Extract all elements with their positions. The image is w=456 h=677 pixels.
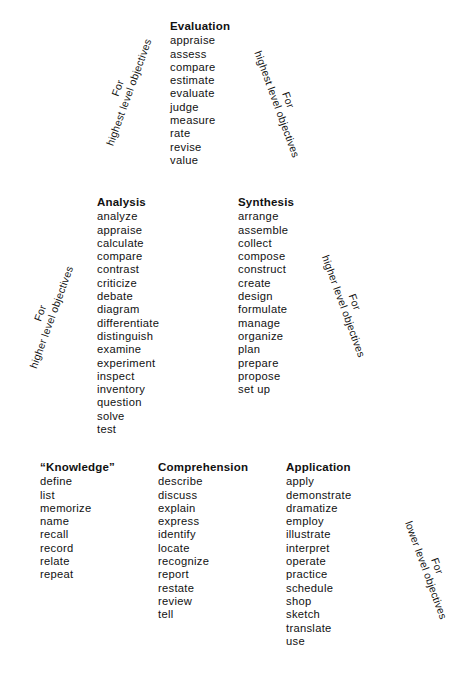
label-higher-left: For higher level objectives [13,252,78,378]
verb-item: use [286,635,352,648]
verb-item: manage [238,317,294,330]
verb-item: rate [170,127,230,140]
analysis-column: Analysis analyzeappraisecalculatecompare… [97,196,159,436]
verb-item: explain [158,502,248,515]
application-verb-list: applydemonstratedramatizeemployillustrat… [286,475,352,648]
comprehension-heading: Comprehension [158,461,248,474]
verb-item: propose [238,370,294,383]
verb-item: name [40,515,115,528]
verb-item: employ [286,515,352,528]
verb-item: translate [286,622,352,635]
verb-item: assemble [238,224,294,237]
verb-item: compare [170,61,230,74]
verb-item: experiment [97,357,159,370]
analysis-heading: Analysis [97,196,159,209]
verb-item: distinguish [97,330,159,343]
verb-item: collect [238,237,294,250]
verb-item: formulate [238,303,294,316]
verb-item: question [97,396,159,409]
knowledge-column: “Knowledge” definelistmemorizenamerecall… [40,461,115,582]
evaluation-verb-list: appraiseassesscompareestimateevaluatejud… [170,34,230,167]
verb-item: arrange [238,210,294,223]
verb-item: practice [286,568,352,581]
verb-item: dramatize [286,502,352,515]
application-heading: Application [286,461,352,474]
verb-item: recall [40,528,115,541]
verb-item: memorize [40,502,115,515]
verb-item: examine [97,343,159,356]
verb-item: construct [238,263,294,276]
verb-item: measure [170,114,230,127]
verb-item: restate [158,582,248,595]
verb-item: solve [97,410,159,423]
verb-item: evaluate [170,87,230,100]
verb-item: appraise [170,34,230,47]
verb-item: inventory [97,383,159,396]
verb-item: design [238,290,294,303]
verb-item: record [40,542,115,555]
verb-item: list [40,489,115,502]
label-lower-right: For lower level objectives [400,508,456,629]
verb-item: set up [238,383,294,396]
verb-item: relate [40,555,115,568]
verb-item: operate [286,555,352,568]
verb-item: compose [238,250,294,263]
comprehension-column: Comprehension describediscussexplainexpr… [158,461,248,622]
verb-item: tell [158,608,248,621]
verb-item: value [170,154,230,167]
verb-item: sketch [286,608,352,621]
verb-item: schedule [286,582,352,595]
verb-item: estimate [170,74,230,87]
verb-item: inspect [97,370,159,383]
verb-item: report [158,568,248,581]
synthesis-verb-list: arrangeassemblecollectcomposeconstructcr… [238,210,294,396]
comprehension-verb-list: describediscussexplainexpressidentifyloc… [158,475,248,621]
verb-item: revise [170,141,230,154]
analysis-verb-list: analyzeappraisecalculatecomparecontrastc… [97,210,159,436]
verb-item: assess [170,48,230,61]
verb-item: review [158,595,248,608]
evaluation-column: Evaluation appraiseassesscompareestimate… [170,20,230,167]
verb-item: appraise [97,224,159,237]
label-higher-right: For higher level objectives [317,241,382,367]
verb-item: express [158,515,248,528]
verb-item: contrast [97,263,159,276]
verb-item: calculate [97,237,159,250]
evaluation-heading: Evaluation [170,20,230,33]
verb-item: discuss [158,489,248,502]
verb-item: shop [286,595,352,608]
verb-item: apply [286,475,352,488]
verb-item: organize [238,330,294,343]
verb-item: judge [170,101,230,114]
verb-item: criticize [97,277,159,290]
synthesis-heading: Synthesis [238,196,294,209]
knowledge-heading: “Knowledge” [40,461,115,474]
verb-item: compare [97,250,159,263]
verb-item: interpret [286,542,352,555]
label-highest-left: For highest level objectives [89,25,156,155]
label-highest-right: For highest level objectives [249,37,316,167]
verb-item: identify [158,528,248,541]
verb-item: repeat [40,568,115,581]
verb-item: prepare [238,357,294,370]
verb-item: locate [158,542,248,555]
verb-item: describe [158,475,248,488]
knowledge-verb-list: definelistmemorizenamerecallrecordrelate… [40,475,115,581]
verb-item: analyze [97,210,159,223]
verb-item: illustrate [286,528,352,541]
verb-item: define [40,475,115,488]
synthesis-column: Synthesis arrangeassemblecollectcomposec… [238,196,294,396]
verb-item: create [238,277,294,290]
application-column: Application applydemonstratedramatizeemp… [286,461,352,648]
verb-item: test [97,423,159,436]
verb-item: diagram [97,303,159,316]
verb-item: demonstrate [286,489,352,502]
verb-item: plan [238,343,294,356]
verb-item: differentiate [97,317,159,330]
verb-item: recognize [158,555,248,568]
verb-item: debate [97,290,159,303]
